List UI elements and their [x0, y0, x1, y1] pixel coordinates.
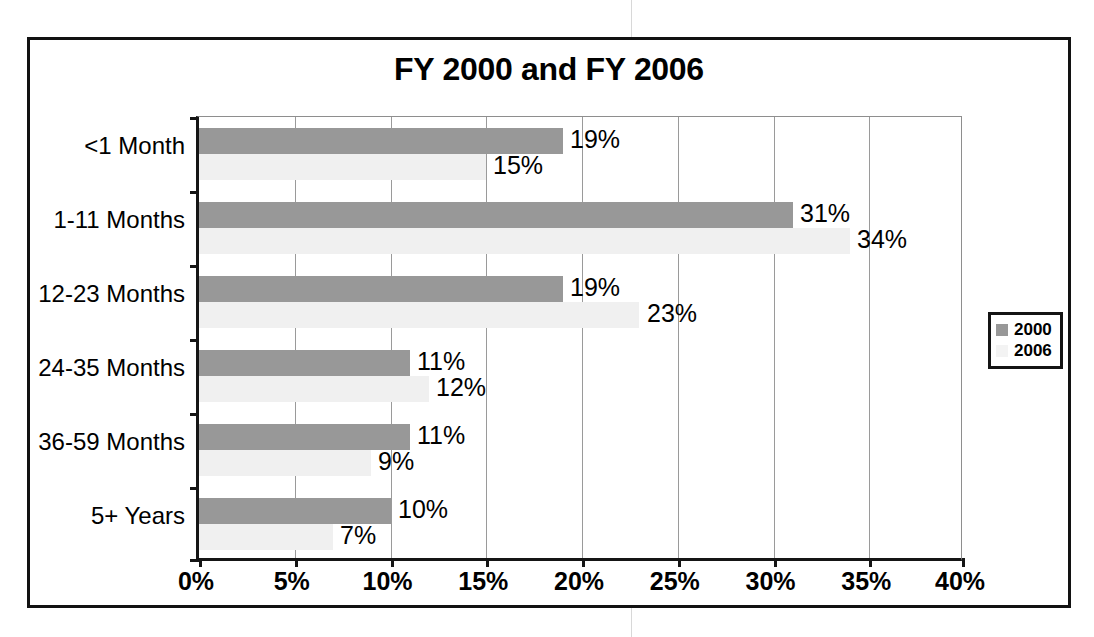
legend-label: 2000: [1014, 321, 1052, 338]
x-axis-label: 20%: [554, 567, 604, 596]
bar-value-label: 15%: [493, 152, 543, 178]
x-axis-tick: [962, 558, 965, 567]
y-axis-tick: [190, 339, 199, 342]
legend-item-2000[interactable]: 2000: [996, 319, 1052, 340]
bar-value-label: 9%: [378, 448, 414, 474]
category-label: 36-59 Months: [38, 428, 185, 456]
bar-value-label: 19%: [570, 126, 620, 152]
bar-group: 19% 23%: [199, 265, 961, 339]
category-label: 1-11 Months: [53, 206, 185, 234]
legend-swatch-icon: [996, 345, 1008, 357]
bar-2006[interactable]: [199, 228, 850, 254]
y-axis-tick: [190, 191, 199, 194]
bar-2006[interactable]: [199, 376, 429, 402]
y-axis-tick: [190, 559, 199, 562]
legend-label: 2006: [1014, 342, 1052, 359]
bar-2000[interactable]: [199, 276, 563, 302]
bar-2000[interactable]: [199, 350, 410, 376]
bar-value-label: 10%: [398, 496, 448, 522]
y-axis-tick: [190, 487, 199, 490]
bar-value-label: 19%: [570, 274, 620, 300]
bar-group: 19% 15%: [199, 117, 961, 191]
bar-2006[interactable]: [199, 302, 639, 328]
bar-2006[interactable]: [199, 450, 371, 476]
category-axis-labels: <1 Month 1-11 Months 12-23 Months 24-35 …: [30, 116, 185, 561]
x-axis-label: 5%: [274, 567, 310, 596]
y-axis-tick: [190, 265, 199, 268]
bar-value-label: 11%: [417, 348, 465, 374]
bar-value-label: 7%: [340, 522, 376, 548]
category-label: <1 Month: [84, 132, 185, 160]
bar-value-label: 23%: [647, 300, 697, 326]
bar-2000[interactable]: [199, 202, 793, 228]
bar-value-label: 12%: [436, 374, 486, 400]
bar-group: 11% 9%: [199, 413, 961, 487]
category-label: 12-23 Months: [38, 280, 185, 308]
x-axis-label: 40%: [935, 567, 985, 596]
x-axis-label: 0%: [178, 567, 214, 596]
bar-group: 10% 7%: [199, 487, 961, 561]
legend-swatch-icon: [996, 324, 1008, 336]
chart-title: FY 2000 and FY 2006: [30, 51, 1068, 88]
y-axis-tick: [190, 117, 199, 120]
x-axis-label: 35%: [841, 567, 891, 596]
chart-frame: FY 2000 and FY 2006 <1 Month 1-11 Months…: [27, 37, 1071, 608]
x-axis-label: 15%: [458, 567, 508, 596]
plot-area: 19% 15% 31% 34% 19% 23% 11%: [196, 116, 962, 561]
bar-groups: 19% 15% 31% 34% 19% 23% 11%: [199, 117, 961, 558]
category-label: 24-35 Months: [38, 354, 185, 382]
x-axis-label: 10%: [362, 567, 412, 596]
bar-value-label: 34%: [857, 226, 907, 252]
bar-group: 31% 34%: [199, 191, 961, 265]
bar-value-label: 31%: [800, 200, 850, 226]
bar-2006[interactable]: [199, 154, 486, 180]
chart-legend: 2000 2006: [988, 312, 1063, 369]
y-axis-tick: [190, 413, 199, 416]
legend-item-2006[interactable]: 2006: [996, 340, 1052, 361]
bar-value-label: 11%: [417, 422, 465, 448]
bar-group: 11% 12%: [199, 339, 961, 413]
category-label: 5+ Years: [91, 502, 185, 530]
x-axis-label: 30%: [745, 567, 795, 596]
bar-2006[interactable]: [199, 524, 333, 550]
x-axis-label: 25%: [650, 567, 700, 596]
